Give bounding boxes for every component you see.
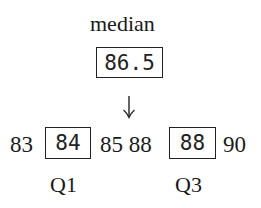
q3-box: 88 — [169, 127, 216, 159]
q3-value: 88 — [180, 130, 205, 155]
q1-box: 84 — [45, 127, 91, 159]
down-arrow-icon — [121, 95, 137, 119]
value-90: 90 — [223, 133, 246, 156]
q1-label: Q1 — [50, 174, 77, 196]
values-85-88: 85 88 — [100, 133, 152, 156]
median-label: median — [90, 13, 155, 35]
q1-value: 84 — [55, 130, 80, 155]
median-value: 86.5 — [104, 50, 155, 75]
median-box: 86.5 — [96, 47, 163, 78]
q3-label: Q3 — [175, 174, 202, 196]
value-83: 83 — [10, 133, 33, 156]
